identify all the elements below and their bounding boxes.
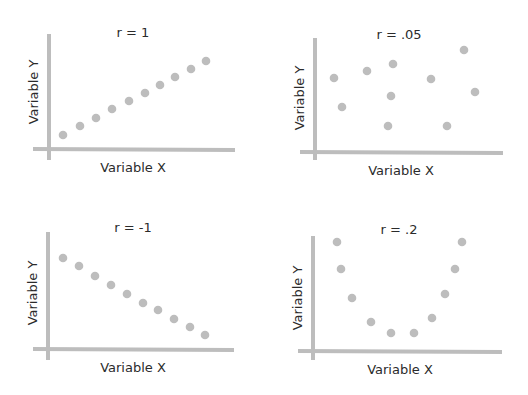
- data-point: [337, 265, 346, 274]
- data-points: [59, 254, 210, 340]
- data-point: [333, 238, 342, 247]
- data-point: [348, 294, 357, 303]
- chart-r-05: r = .05 Variable X Variable Y: [292, 27, 503, 178]
- scatter-figure: r = 1 Variable X Variable Y r = .05 Vari…: [0, 0, 528, 395]
- data-point: [389, 60, 398, 69]
- data-points: [59, 57, 211, 140]
- x-axis-label: Variable X: [100, 360, 166, 375]
- data-point: [59, 131, 68, 140]
- chart-r-1: r = 1 Variable X Variable Y: [26, 25, 235, 175]
- data-point: [427, 75, 436, 84]
- data-point: [91, 272, 100, 281]
- data-point: [123, 290, 132, 299]
- data-point: [443, 122, 452, 131]
- data-point: [186, 323, 195, 332]
- data-point: [154, 306, 163, 315]
- x-axis: [33, 149, 235, 150]
- data-point: [202, 57, 211, 66]
- data-point: [75, 262, 84, 271]
- data-point: [451, 265, 460, 274]
- data-point: [387, 92, 396, 101]
- data-point: [367, 318, 376, 327]
- data-point: [108, 105, 117, 114]
- data-point: [458, 238, 467, 247]
- data-points: [330, 46, 480, 131]
- data-point: [59, 254, 68, 263]
- x-axis-label: Variable X: [100, 160, 166, 175]
- data-point: [384, 122, 393, 131]
- x-axis: [298, 351, 502, 352]
- data-point: [76, 122, 85, 131]
- data-point: [363, 67, 372, 76]
- data-point: [471, 88, 480, 97]
- data-point: [92, 114, 101, 123]
- data-point: [171, 73, 180, 82]
- data-point: [107, 281, 116, 290]
- data-point: [170, 315, 179, 324]
- data-point: [141, 89, 150, 98]
- chart-title: r = .2: [381, 222, 418, 237]
- data-point: [156, 81, 165, 90]
- data-point: [187, 65, 196, 74]
- data-point: [330, 74, 339, 83]
- y-axis-label: Variable Y: [292, 66, 307, 131]
- x-axis: [300, 152, 503, 153]
- chart-title: r = .05: [376, 27, 421, 42]
- data-point: [441, 290, 450, 299]
- data-point: [201, 331, 210, 340]
- chart-r-2: r = .2 Variable X Variable Y: [290, 222, 502, 377]
- chart-title: r = -1: [114, 220, 151, 235]
- data-point: [460, 46, 469, 55]
- data-point: [139, 299, 148, 308]
- data-point: [125, 97, 134, 106]
- x-axis: [33, 349, 234, 350]
- chart-r-neg-1: r = -1 Variable X Variable Y: [25, 220, 234, 375]
- chart-title: r = 1: [117, 25, 150, 40]
- y-axis-label: Variable Y: [290, 266, 305, 331]
- data-points: [333, 238, 467, 338]
- x-axis-label: Variable X: [368, 163, 434, 178]
- data-point: [410, 329, 419, 338]
- data-point: [338, 103, 347, 112]
- y-axis-label: Variable Y: [26, 60, 41, 125]
- data-point: [428, 314, 437, 323]
- x-axis-label: Variable X: [367, 362, 433, 377]
- y-axis-label: Variable Y: [25, 261, 40, 326]
- data-point: [387, 329, 396, 338]
